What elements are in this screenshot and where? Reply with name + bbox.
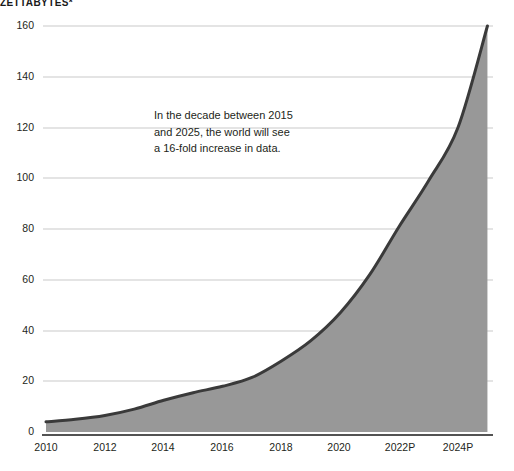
y-axis-tick-label: 20: [2, 375, 34, 386]
y-axis-tick-label: 100: [2, 172, 34, 183]
y-axis-tick-label: 120: [2, 122, 34, 133]
x-axis-tick-label: 2020: [309, 441, 369, 453]
x-axis-tick-label: 2018: [251, 441, 311, 453]
annotation-line-2: and 2025, the world will see: [154, 124, 306, 141]
x-axis-tick-label: 2010: [16, 441, 76, 453]
annotation-line-1: In the decade between 2015: [154, 107, 306, 124]
x-axis-tick-label: 2024P: [428, 441, 488, 453]
chart-annotation: In the decade between 2015 and 2025, the…: [154, 107, 306, 157]
x-axis-tick-label: 2014: [133, 441, 193, 453]
y-axis-tick-label: 0: [2, 426, 34, 437]
y-axis-tick-label: 80: [2, 223, 34, 234]
chart-plot-area: [0, 0, 514, 471]
y-axis-tick-label: 160: [2, 20, 34, 31]
annotation-line-3: a 16-fold increase in data.: [154, 140, 306, 157]
zettabytes-area-chart: ZETTABYTES* 020406080100120140160 201020…: [0, 0, 514, 471]
x-axis-tick-label: 2016: [192, 441, 252, 453]
x-axis-tick-label: 2022P: [370, 441, 430, 453]
y-axis-tick-label: 140: [2, 71, 34, 82]
y-axis-tick-label: 60: [2, 274, 34, 285]
y-axis-tick-label: 40: [2, 325, 34, 336]
x-axis-tick-label: 2012: [75, 441, 135, 453]
